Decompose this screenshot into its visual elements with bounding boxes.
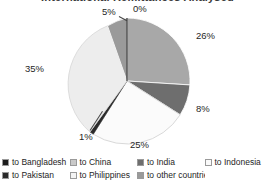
legend-label-to-indonesia: to Indonesia: [215, 158, 261, 167]
legend-swatch-to-china: [70, 159, 77, 166]
legend-swatch-to-bangladesh: [2, 159, 9, 166]
legend-item-to-indonesia[interactable]: to Indonesia: [205, 156, 273, 168]
chart-plot-area: 0% 5% 26% 8% 25% 1% 35%: [0, 4, 275, 154]
pie-slice-to-china: [127, 18, 190, 85]
data-label-to-philippines: 35%: [25, 64, 44, 74]
legend-label-to-india: to India: [147, 158, 175, 167]
legend-item-to-philippines[interactable]: to Philippines: [70, 169, 138, 181]
legend-label-to-bangladesh: to Bangladesh: [12, 158, 66, 167]
data-label-to-india: 8%: [196, 104, 210, 114]
legend-swatch-to-indonesia: [205, 159, 212, 166]
legend-swatch-to-india: [137, 159, 144, 166]
legend-item-to-other-countries[interactable]: to other countries: [137, 169, 205, 181]
legend-item-to-china[interactable]: to China: [70, 156, 138, 168]
legend-label-to-philippines: to Philippines: [80, 171, 131, 180]
data-label-to-other-countries: 5%: [102, 7, 116, 17]
data-label-to-pakistan: 1%: [79, 132, 93, 142]
legend-swatch-to-philippines: [70, 172, 77, 179]
data-label-to-bangladesh: 0%: [133, 4, 147, 14]
legend-row-2: to Pakistan to Philippines to other coun…: [2, 169, 273, 181]
legend-item-to-bangladesh[interactable]: to Bangladesh: [2, 156, 70, 168]
pie-chart-figure: International Remittances Analysed: [0, 0, 275, 184]
pie-svg: [63, 17, 191, 145]
legend-label-to-china: to China: [80, 158, 112, 167]
data-label-to-indonesia: 25%: [130, 140, 149, 150]
data-label-to-china: 26%: [196, 31, 215, 41]
pie-graphic: [63, 17, 191, 145]
legend-label-to-pakistan: to Pakistan: [12, 171, 54, 180]
legend-swatch-to-other-countries: [137, 172, 144, 179]
legend-swatch-to-pakistan: [2, 172, 9, 179]
legend-row-1: to Bangladesh to China to India to Indon…: [2, 156, 273, 168]
legend-item-placeholder: [205, 169, 273, 181]
legend-item-to-india[interactable]: to India: [137, 156, 205, 168]
legend-label-to-other-countries: to other countries: [147, 171, 205, 180]
chart-legend: to Bangladesh to China to India to Indon…: [2, 156, 273, 183]
legend-item-to-pakistan[interactable]: to Pakistan: [2, 169, 70, 181]
